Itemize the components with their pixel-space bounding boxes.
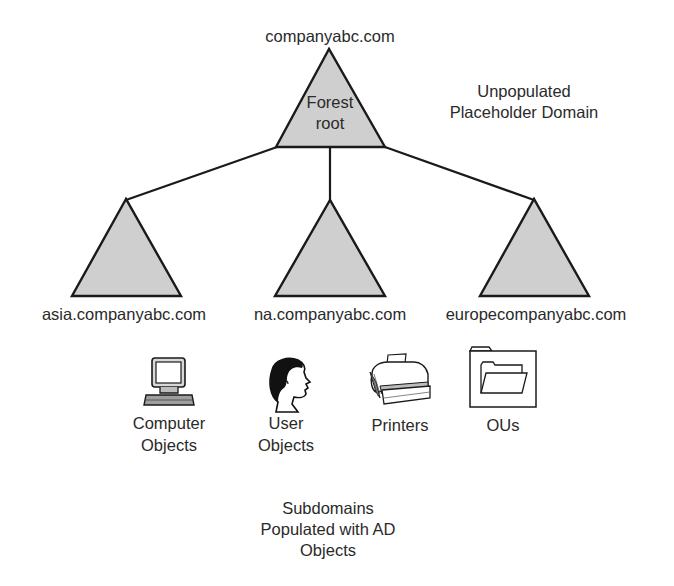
- root-note-line1: Unpopulated: [477, 82, 571, 101]
- folder-icon: [469, 345, 539, 409]
- object-label-ous: OUs: [487, 416, 520, 435]
- na-domain-triangle: [275, 200, 385, 296]
- object-label-computer-line1: Computer: [133, 414, 205, 433]
- root-domain-label: companyabc.com: [265, 27, 394, 46]
- printer-icon: [366, 352, 434, 410]
- subdomain-label-asia: asia.companyabc.com: [42, 305, 206, 324]
- root-note-line2: Placeholder Domain: [450, 103, 599, 122]
- asia-domain-triangle: [72, 199, 181, 296]
- forest-root-label-line1: Forest: [307, 93, 354, 112]
- user-head-icon: [264, 356, 312, 414]
- forest-root-label-line2: root: [316, 114, 344, 133]
- footer-note-line2: Populated with AD: [261, 520, 396, 539]
- subdomain-label-na: na.companyabc.com: [254, 305, 406, 324]
- footer-note-line3: Objects: [300, 541, 356, 560]
- subdomain-label-europe: europecompanyabc.com: [446, 305, 627, 324]
- object-label-computer-line2: Objects: [141, 436, 197, 455]
- europe-domain-triangle: [480, 199, 589, 296]
- object-label-user-line2: Objects: [258, 436, 314, 455]
- footer-note-line1: Subdomains: [282, 499, 374, 518]
- connector-root-europe: [385, 147, 534, 200]
- object-label-user-line1: User: [269, 414, 304, 433]
- connector-root-asia: [126, 147, 277, 200]
- computer-icon: [142, 357, 196, 409]
- object-label-printers: Printers: [372, 416, 429, 435]
